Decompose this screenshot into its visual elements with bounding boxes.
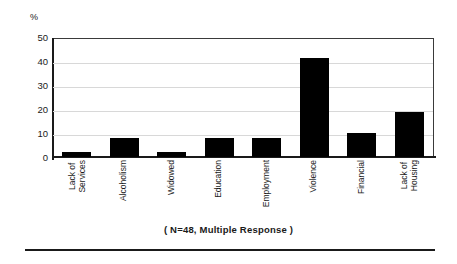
- bar-slot: [196, 39, 244, 157]
- chart-caption: ( N=48, Multiple Response ): [0, 224, 457, 235]
- x-label-lack-of-services: Lack ofServices: [67, 160, 86, 193]
- x-label-employment: Employment: [262, 160, 272, 207]
- bar-lack-of-housing: [395, 112, 424, 157]
- y-tick-50: 50: [26, 33, 48, 43]
- x-label-lack-of-housing: Lack ofHousing: [400, 160, 419, 191]
- bar-employment: [252, 138, 281, 157]
- x-label-slot: Lack ofHousing: [386, 160, 434, 218]
- x-axis-category-labels: Lack ofServicesAlcoholismWidowedEducatio…: [53, 160, 433, 218]
- y-tick-10: 10: [26, 129, 48, 139]
- bar-slot: [53, 39, 101, 157]
- y-axis-tick-labels: 50 40 30 20 10 0: [24, 38, 48, 158]
- x-label-slot: Financial: [338, 160, 386, 218]
- bar-chart-figure: % 50 40 30 20 10 0 Lack ofServicesAlcoho…: [0, 0, 457, 264]
- y-tick-20: 20: [26, 105, 48, 115]
- x-label-widowed: Widowed: [167, 160, 177, 195]
- bar-widowed: [157, 152, 186, 157]
- x-label-alcoholism: Alcoholism: [120, 160, 130, 201]
- x-label-financial: Financial: [357, 160, 367, 194]
- bar-education: [205, 138, 234, 157]
- bar-financial: [347, 133, 376, 157]
- y-tick-40: 40: [26, 57, 48, 67]
- bar-series: [53, 39, 433, 157]
- y-tick-0: 0: [26, 153, 48, 163]
- bar-violence: [300, 58, 329, 157]
- x-label-slot: Employment: [243, 160, 291, 218]
- bar-lack-of-services: [62, 152, 91, 157]
- y-tick-30: 30: [26, 81, 48, 91]
- x-label-slot: Education: [196, 160, 244, 218]
- x-label-slot: Lack ofServices: [53, 160, 101, 218]
- bar-alcoholism: [110, 138, 139, 157]
- x-label-slot: Alcoholism: [101, 160, 149, 218]
- bar-slot: [243, 39, 291, 157]
- bottom-divider: [25, 249, 435, 251]
- x-label-violence: Violence: [310, 160, 320, 192]
- y-axis-unit-label: %: [30, 12, 38, 22]
- bar-slot: [148, 39, 196, 157]
- x-label-slot: Widowed: [148, 160, 196, 218]
- x-label-slot: Violence: [291, 160, 339, 218]
- bar-slot: [291, 39, 339, 157]
- bar-slot: [101, 39, 149, 157]
- bar-slot: [338, 39, 386, 157]
- x-label-education: Education: [215, 160, 225, 198]
- bar-slot: [386, 39, 434, 157]
